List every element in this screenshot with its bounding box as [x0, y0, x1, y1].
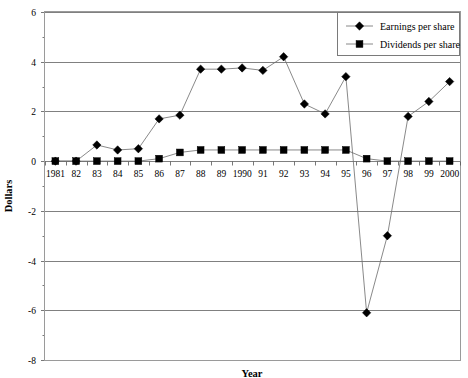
data-point-marker [52, 158, 59, 165]
data-point-marker [93, 158, 100, 165]
x-axis-tick-label: 86 [154, 169, 164, 179]
x-axis-tick-label: 99 [424, 169, 434, 179]
data-point-marker [322, 147, 329, 154]
chart-container: 6420-2-4-6-8 198182838485868788891990919… [0, 0, 468, 378]
x-axis-tick-label: 95 [341, 169, 351, 179]
data-point-marker [301, 147, 308, 154]
line-chart: 6420-2-4-6-8 198182838485868788891990919… [0, 0, 468, 378]
x-axis-tick-label: 83 [92, 169, 102, 179]
data-point-marker [446, 158, 453, 165]
x-axis-tick-label: 87 [175, 169, 185, 179]
y-axis-tick-label: 2 [31, 107, 36, 117]
y-axis-title: Dollars [3, 180, 14, 213]
data-point-marker [114, 158, 121, 165]
x-axis-tick-label: 89 [217, 169, 227, 179]
data-point-marker [156, 155, 163, 162]
x-axis-tick-label: 85 [134, 169, 144, 179]
x-axis-tick-label: 1981 [46, 169, 65, 179]
data-point-marker [425, 158, 432, 165]
x-axis-tick-label: 2000 [440, 169, 459, 179]
y-axis-tick-label: -6 [28, 306, 36, 316]
chart-background [0, 0, 468, 378]
data-point-marker [197, 147, 204, 154]
data-point-marker [259, 147, 266, 154]
legend: Earnings per shareDividends per share [338, 13, 461, 56]
x-axis-tick-label: 88 [196, 169, 206, 179]
y-axis-tick-label: 0 [31, 157, 36, 167]
data-point-marker [239, 147, 246, 154]
y-axis-tick-label: -8 [28, 356, 36, 366]
x-axis-tick-label: 93 [300, 169, 310, 179]
data-point-marker [384, 158, 391, 165]
x-axis-tick-label: 97 [383, 169, 393, 179]
y-axis-tick-label: -4 [28, 257, 36, 267]
y-axis-tick-label: -2 [28, 207, 36, 217]
x-axis-tick-label: 92 [279, 169, 289, 179]
x-axis-tick-label: 98 [403, 169, 413, 179]
legend-square-icon [356, 41, 363, 48]
x-axis-tick-label: 94 [320, 169, 330, 179]
x-axis-tick-label: 1990 [233, 169, 252, 179]
data-point-marker [405, 158, 412, 165]
x-axis-title: Year [242, 368, 263, 378]
legend-label: Earnings per share [380, 21, 455, 32]
data-point-marker [176, 149, 183, 156]
x-axis-tick-label: 82 [71, 169, 81, 179]
legend-label: Dividends per share [380, 39, 461, 50]
data-point-marker [73, 158, 80, 165]
y-axis-tick-label: 6 [31, 8, 36, 18]
data-point-marker [218, 147, 225, 154]
data-point-marker [363, 155, 370, 162]
x-axis-tick-label: 91 [258, 169, 268, 179]
data-point-marker [135, 158, 142, 165]
x-axis-tick-label: 96 [362, 169, 372, 179]
data-point-marker [342, 147, 349, 154]
x-axis-tick-label: 84 [113, 169, 123, 179]
data-point-marker [280, 147, 287, 154]
y-axis-tick-label: 4 [31, 58, 36, 68]
